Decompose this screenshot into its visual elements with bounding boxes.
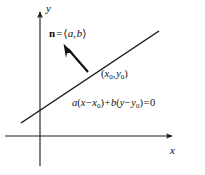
normal-vector-label: n=⟨a, b⟩	[49, 28, 87, 39]
line-equation-label: a(x−x0)+b(y−y0)=0	[72, 98, 155, 110]
point-paren-close: )	[124, 68, 128, 79]
eq-zero: 0	[150, 97, 155, 108]
normal-vector-arrowhead	[64, 44, 73, 59]
point-comma: ,	[113, 68, 116, 79]
figure-canvas: y x n=⟨a, b⟩ (x0, y0) a(x−x0)+b(y−y0)=0	[0, 0, 205, 175]
x-axis-label: x	[170, 145, 175, 156]
point-coordinate-label: (x0, y0)	[101, 69, 128, 81]
normal-comma: ,	[73, 27, 76, 39]
eq-plus: +	[104, 97, 111, 108]
angle-bracket-close-icon: ⟩	[82, 27, 86, 39]
y-axis-label: y	[46, 3, 51, 14]
eq-equals: =	[143, 97, 150, 108]
